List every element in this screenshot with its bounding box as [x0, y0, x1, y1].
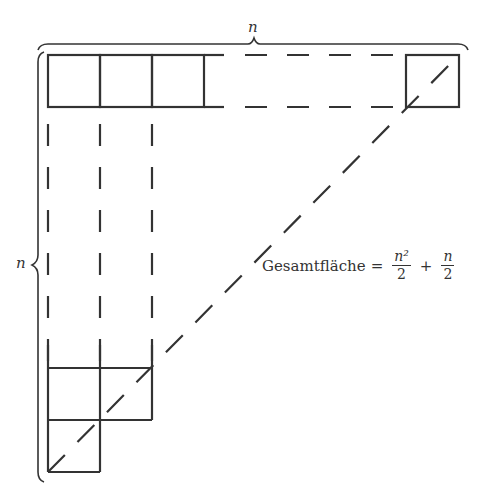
fraction-denominator: 2	[443, 266, 452, 283]
left-brace	[32, 52, 44, 482]
diagram-canvas	[0, 0, 477, 493]
fraction-numerator: n²	[392, 248, 411, 266]
top-row-squares	[48, 55, 224, 107]
formula-plus: +	[420, 257, 433, 275]
area-formula: Gesamtfläche = n² 2 + n 2	[262, 248, 458, 283]
bottom-squares	[48, 345, 152, 472]
fraction-n-over-2: n 2	[441, 248, 454, 283]
top-brace	[38, 38, 468, 50]
fraction-denominator: 2	[397, 266, 406, 283]
left-brace-label: n	[16, 254, 26, 272]
top-dashed-edges	[245, 55, 400, 107]
top-brace-label: n	[248, 18, 258, 36]
left-dashed-edges	[48, 124, 152, 368]
fraction-n-squared-over-2: n² 2	[392, 248, 411, 283]
fraction-numerator: n	[441, 248, 454, 266]
formula-equals: =	[371, 257, 384, 275]
formula-text: Gesamtfläche	[262, 257, 366, 275]
